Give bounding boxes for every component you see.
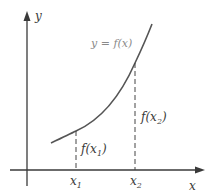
function-graph-diagram: y x y = f(x) f(x2) f(x1) x1 x2 [0,0,213,195]
y-axis-arrow-icon [24,11,31,21]
x1-label-sub: 1 [77,181,82,190]
f-x2-label: f(x2) [140,110,167,126]
x2-label-sub: 2 [136,181,142,190]
x2-label: x2 [130,174,142,190]
f-x1-label-pre: f(x [80,142,97,156]
f-x1-label: f(x1) [80,142,107,158]
f-x2-label-pre: f(x [140,110,157,124]
x1-label: x1 [70,174,82,190]
y-axis-label: y [34,9,42,23]
x-axis-arrow-icon [195,167,205,174]
x-axis-label: x [189,179,196,193]
x-axis [10,167,205,174]
curve-label: y = f(x) [90,37,132,50]
f-x2-label-post: ) [161,110,167,124]
f-x1-label-post: ) [101,142,107,156]
y-axis [24,11,31,186]
